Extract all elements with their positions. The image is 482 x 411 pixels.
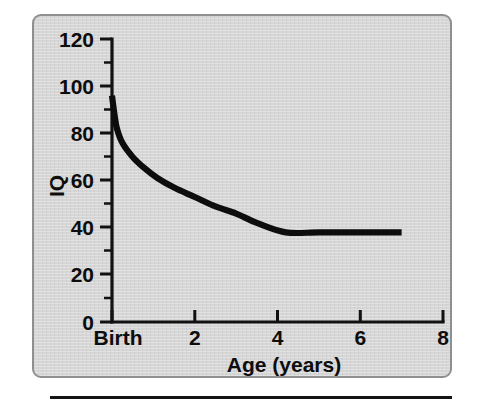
y-tick-label: 0 <box>82 311 94 334</box>
y-tick-label: 60 <box>71 169 94 192</box>
x-axis-major-ticks <box>112 310 443 322</box>
y-axis-major-ticks <box>100 39 112 322</box>
x-tick-label: 2 <box>189 326 201 349</box>
y-tick-label: 80 <box>71 122 94 145</box>
iq-vs-age-line-chart: 120 100 80 60 40 20 0 Birth 2 4 6 8 IQ A… <box>34 16 452 378</box>
x-axis-title: Age (years) <box>227 353 341 376</box>
x-tick-label: 8 <box>437 326 449 349</box>
y-tick-label: 100 <box>59 75 94 98</box>
bottom-divider-rule <box>50 396 452 399</box>
x-tick-label: Birth <box>94 326 143 349</box>
y-tick-label: 40 <box>71 216 94 239</box>
y-tick-label: 20 <box>71 263 94 286</box>
x-axis-tick-labels: Birth 2 4 6 8 <box>94 326 450 349</box>
x-tick-label: 4 <box>272 326 284 349</box>
figure-root: 120 100 80 60 40 20 0 Birth 2 4 6 8 IQ A… <box>0 0 482 411</box>
x-tick-label: 6 <box>354 326 366 349</box>
y-tick-label: 120 <box>59 28 94 51</box>
y-axis-title: IQ <box>45 175 68 197</box>
iq-decline-curve <box>112 96 402 233</box>
chart-panel: 120 100 80 60 40 20 0 Birth 2 4 6 8 IQ A… <box>32 14 452 378</box>
